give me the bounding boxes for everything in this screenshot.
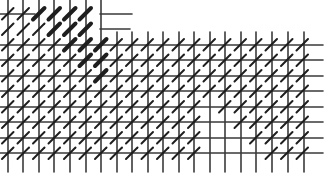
background [0,0,328,177]
hatched-grid-illustration [0,0,328,177]
